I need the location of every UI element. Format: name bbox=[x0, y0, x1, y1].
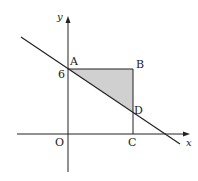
y-axis-label: y bbox=[56, 11, 63, 22]
coordinate-diagram: y x O 6 A B C D bbox=[0, 0, 198, 181]
y-intercept-label: 6 bbox=[58, 68, 65, 81]
x-axis-label: x bbox=[186, 137, 192, 148]
y-axis-arrow-icon bbox=[66, 16, 71, 23]
point-a-label: A bbox=[69, 55, 79, 68]
x-axis-arrow-icon bbox=[183, 132, 190, 137]
point-b-label: B bbox=[136, 58, 144, 71]
point-d-label: D bbox=[134, 104, 143, 117]
line-ad bbox=[21, 37, 180, 144]
point-c-label: C bbox=[128, 136, 136, 149]
origin-label: O bbox=[55, 136, 64, 149]
